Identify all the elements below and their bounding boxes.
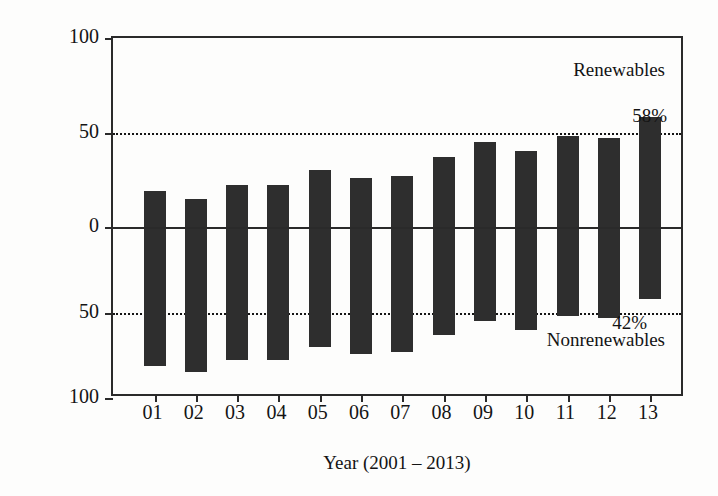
x-tick-label-13: 13	[626, 402, 670, 422]
bar-renewables-04	[267, 185, 289, 227]
y-tick-mark-0	[105, 227, 113, 229]
x-tick-label-10: 10	[502, 402, 546, 422]
y-tick-mark-100	[105, 398, 113, 400]
bar-nonrenewables-05	[309, 227, 331, 347]
bar-nonrenewables-09	[474, 227, 496, 321]
bar-nonrenewables-10	[515, 227, 537, 330]
renewables-2013-value-label: 58%	[632, 106, 667, 125]
bar-renewables-09	[474, 142, 496, 227]
chart-figure: Share in global net capacity additions (…	[0, 0, 718, 496]
renewables-series-label: Renewables	[573, 60, 665, 79]
zero-axis-line	[113, 227, 681, 229]
bar-nonrenewables-01	[144, 227, 166, 366]
bar-nonrenewables-02	[185, 227, 207, 372]
x-axis-title: Year (2001 – 2013)	[111, 452, 683, 474]
bar-renewables-01	[144, 191, 166, 227]
y-tick-label-50: 50	[39, 301, 99, 321]
bar-renewables-08	[433, 157, 455, 227]
bar-renewables-07	[391, 176, 413, 227]
bar-nonrenewables-12	[598, 227, 620, 318]
bar-renewables-03	[226, 185, 248, 227]
bar-nonrenewables-13	[639, 227, 661, 299]
x-tick-label-02: 02	[172, 402, 216, 422]
x-tick-label-04: 04	[254, 402, 298, 422]
y-tick-label-0: 0	[39, 215, 99, 235]
bar-nonrenewables-11	[557, 227, 579, 316]
bar-renewables-10	[515, 151, 537, 227]
bar-nonrenewables-03	[226, 227, 248, 360]
reference-line-50	[113, 133, 681, 135]
bar-renewables-11	[557, 136, 579, 227]
x-tick-label-08: 08	[420, 402, 464, 422]
y-tick-label-100: 100	[39, 386, 99, 406]
y-tick-mark-100	[105, 38, 113, 40]
x-tick-label-07: 07	[378, 402, 422, 422]
y-tick-mark-50	[105, 133, 113, 135]
x-tick-label-05: 05	[296, 402, 340, 422]
bar-nonrenewables-08	[433, 227, 455, 335]
x-tick-label-01: 01	[131, 402, 175, 422]
x-tick-label-03: 03	[213, 402, 257, 422]
bar-renewables-05	[309, 170, 331, 227]
bar-renewables-06	[350, 178, 372, 227]
bar-renewables-13	[639, 117, 661, 227]
bar-renewables-12	[598, 138, 620, 227]
x-tick-label-06: 06	[337, 402, 381, 422]
bar-nonrenewables-06	[350, 227, 372, 354]
bar-nonrenewables-07	[391, 227, 413, 352]
x-tick-label-12: 12	[585, 402, 629, 422]
x-tick-label-09: 09	[461, 402, 505, 422]
bar-nonrenewables-04	[267, 227, 289, 360]
bar-renewables-02	[185, 199, 207, 227]
nonrenewables-2013-value-label: 42%	[612, 313, 647, 332]
plot-area: Renewables Nonrenewables 58% 42%	[111, 36, 683, 396]
x-tick-label-11: 11	[544, 402, 588, 422]
y-tick-label-50: 50	[39, 121, 99, 141]
nonrenewables-series-label: Nonrenewables	[547, 330, 665, 349]
y-tick-mark-50	[105, 313, 113, 315]
y-tick-label-100: 100	[39, 26, 99, 46]
